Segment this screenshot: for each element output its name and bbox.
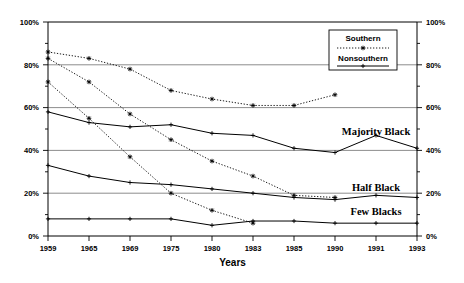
y-axis-tick-label-left: 40% bbox=[24, 146, 39, 155]
y-axis-tick-label-right: 60% bbox=[426, 103, 441, 112]
data-point-marker bbox=[210, 131, 214, 135]
y-axis-tick-label-right: 100% bbox=[426, 18, 446, 27]
data-point-marker bbox=[169, 217, 173, 221]
data-point-marker bbox=[46, 110, 50, 114]
y-axis-tick-label-right: 40% bbox=[426, 146, 441, 155]
y-axis-tick-label-right: 20% bbox=[426, 189, 441, 198]
data-point-marker bbox=[374, 193, 378, 197]
data-point-marker bbox=[210, 187, 214, 191]
data-point-marker bbox=[128, 217, 132, 221]
data-point-marker bbox=[415, 221, 419, 225]
y-axis-tick-label-left: 100% bbox=[20, 18, 40, 27]
data-point-marker bbox=[169, 123, 173, 127]
x-axis-tick-label: 1991 bbox=[368, 244, 385, 253]
y-axis-tick-label-right: 80% bbox=[426, 61, 441, 70]
data-point-marker bbox=[333, 198, 337, 202]
data-point-marker bbox=[46, 50, 51, 55]
data-point-marker bbox=[415, 146, 419, 150]
data-point-marker bbox=[128, 67, 133, 72]
data-point-marker bbox=[292, 146, 296, 150]
x-axis-tick-label: 1983 bbox=[245, 244, 262, 253]
data-point-marker bbox=[87, 116, 92, 121]
data-point-marker bbox=[87, 174, 91, 178]
series-annotation-label: Half Black bbox=[352, 182, 400, 193]
data-point-marker bbox=[251, 219, 255, 223]
data-point-marker bbox=[46, 163, 50, 167]
data-point-marker bbox=[210, 97, 215, 102]
data-point-marker bbox=[292, 103, 297, 108]
x-axis-tick-label: 1975 bbox=[163, 244, 180, 253]
data-point-marker bbox=[333, 150, 337, 154]
data-point-marker bbox=[46, 217, 50, 221]
data-point-marker bbox=[128, 125, 132, 129]
data-point-marker bbox=[292, 195, 296, 199]
series-line bbox=[48, 82, 253, 223]
series-line bbox=[48, 219, 417, 225]
x-axis-tick-label: 1990 bbox=[327, 244, 344, 253]
line-chart: 0%0%20%20%40%40%60%60%80%80%100%100%1959… bbox=[0, 0, 464, 283]
data-point-marker bbox=[169, 88, 174, 93]
data-point-marker bbox=[415, 195, 419, 199]
data-point-marker bbox=[169, 137, 174, 142]
data-point-marker bbox=[292, 219, 296, 223]
y-axis-tick-label-left: 0% bbox=[28, 232, 39, 241]
x-axis-tick-label: 1959 bbox=[40, 244, 57, 253]
y-axis-tick-label-right: 0% bbox=[426, 232, 437, 241]
chart-figure: 0%0%20%20%40%40%60%60%80%80%100%100%1959… bbox=[0, 0, 464, 283]
y-axis-tick-label-left: 80% bbox=[24, 61, 39, 70]
y-axis-tick-label-left: 20% bbox=[24, 189, 39, 198]
x-axis-tick-label: 1969 bbox=[122, 244, 139, 253]
legend-label-southern: Southern bbox=[345, 34, 380, 43]
data-point-marker bbox=[251, 103, 256, 108]
x-axis-tick-label: 1985 bbox=[286, 244, 303, 253]
x-axis-title: Years bbox=[219, 257, 246, 268]
data-point-marker bbox=[210, 208, 215, 213]
data-point-marker bbox=[87, 217, 91, 221]
data-point-marker bbox=[251, 174, 256, 179]
data-point-marker bbox=[210, 223, 214, 227]
figure-caption bbox=[0, 271, 464, 283]
data-point-marker bbox=[169, 183, 173, 187]
data-point-marker bbox=[128, 180, 132, 184]
data-point-marker bbox=[128, 112, 133, 117]
data-point-marker bbox=[374, 221, 378, 225]
data-point-marker bbox=[46, 56, 51, 61]
data-point-marker bbox=[333, 221, 337, 225]
data-point-marker bbox=[333, 92, 338, 97]
data-point-marker bbox=[251, 191, 255, 195]
series-annotation-label: Majority Black bbox=[342, 126, 411, 137]
x-axis-tick-label: 1980 bbox=[204, 244, 221, 253]
x-axis-tick-label: 1993 bbox=[409, 244, 426, 253]
data-point-marker bbox=[87, 120, 91, 124]
data-point-marker bbox=[169, 191, 174, 196]
data-point-marker bbox=[210, 159, 215, 164]
data-point-marker bbox=[87, 80, 92, 85]
y-axis-tick-label-left: 60% bbox=[24, 103, 39, 112]
series-annotation-label: Few Blacks bbox=[350, 206, 401, 217]
x-axis-tick-label: 1965 bbox=[81, 244, 98, 253]
series-line bbox=[48, 52, 335, 106]
data-point-marker bbox=[361, 46, 366, 51]
data-point-marker bbox=[46, 80, 51, 85]
data-point-marker bbox=[87, 56, 92, 61]
data-point-marker bbox=[128, 155, 133, 160]
data-point-marker bbox=[251, 133, 255, 137]
legend-label-nonsouthern: Nonsouthern bbox=[338, 54, 388, 63]
